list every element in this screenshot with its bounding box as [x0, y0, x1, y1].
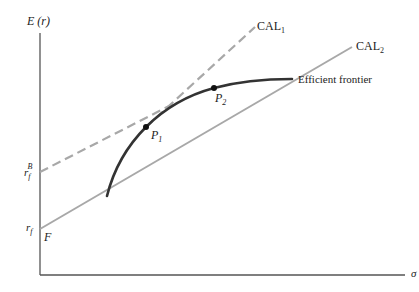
- y-axis-label: E (r): [26, 14, 50, 28]
- point-f-label: F: [43, 230, 52, 244]
- x-axis-label: σ: [411, 267, 417, 279]
- p1-label: P1: [150, 128, 162, 144]
- p2-label: P2: [214, 91, 226, 107]
- point-p1: [143, 124, 149, 130]
- efficient-frontier-label: Efficient frontier: [298, 73, 372, 85]
- cal2-label: CAL2: [356, 39, 384, 55]
- cal1-label: CAL1: [257, 19, 285, 35]
- efficient-frontier-curve: [107, 79, 292, 196]
- rf-borrowing-label: rfB: [24, 162, 33, 181]
- efficient-frontier-diagram: E (r) σ rf F rfB P1 P2 CAL1 CAL2 Efficie…: [0, 0, 419, 292]
- rf-label: rf: [26, 221, 34, 236]
